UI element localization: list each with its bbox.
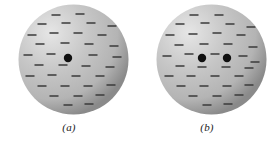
- figure-panel-a: (a): [0, 0, 138, 144]
- sphere-b-graphic: [156, 4, 267, 115]
- sphere-a-point-charges: [64, 54, 72, 62]
- point-charge-dot: [198, 54, 206, 62]
- point-charge-dot: [64, 54, 72, 62]
- sphere-b-body: [157, 5, 267, 115]
- figure-container: (a) (b): [0, 0, 276, 144]
- sphere-a: [18, 4, 129, 115]
- sphere-a-body: [19, 5, 129, 115]
- sphere-b: [156, 4, 267, 115]
- figure-panel-b: (b): [138, 0, 276, 144]
- point-charge-dot: [223, 54, 231, 62]
- panel-a-caption: (a): [0, 120, 138, 134]
- sphere-a-graphic: [18, 4, 129, 115]
- panel-b-caption: (b): [138, 120, 276, 134]
